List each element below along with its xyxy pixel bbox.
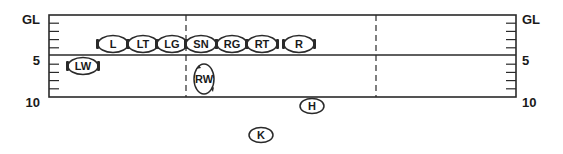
block-marker-icon xyxy=(96,39,99,49)
block-marker-icon xyxy=(184,39,187,49)
players: LLTLGSNRGRTRLWRWHK xyxy=(66,36,324,143)
player-label: LW xyxy=(75,60,92,72)
player-l: L xyxy=(96,36,130,53)
block-marker-icon xyxy=(155,39,158,49)
block-marker-icon xyxy=(245,39,248,49)
player-r: R xyxy=(282,36,316,53)
player-label: RW xyxy=(195,73,214,85)
yard-labels-right: GL510 xyxy=(522,12,540,110)
block-marker-icon xyxy=(126,39,129,49)
player-lg: LG xyxy=(155,36,189,53)
player-rt: RT xyxy=(245,36,279,53)
yard-labels-left: GL510 xyxy=(22,12,40,110)
block-marker-icon xyxy=(66,61,69,71)
yard-label: 10 xyxy=(522,95,536,110)
block-marker-icon xyxy=(313,39,316,49)
yard-label: GL xyxy=(22,12,40,27)
field-box xyxy=(49,15,516,97)
player-h: H xyxy=(300,99,324,114)
player-label: RG xyxy=(224,38,241,50)
player-label: H xyxy=(308,100,316,112)
player-rg: RG xyxy=(215,36,249,53)
block-marker-icon xyxy=(282,39,285,49)
field-outline xyxy=(49,15,516,97)
yard-label: 10 xyxy=(26,95,40,110)
field-diagram: GL510 GL510 LLTLGSNRGRTRLWRWHK xyxy=(0,0,563,154)
player-sn: SN xyxy=(184,36,218,53)
player-k: K xyxy=(249,128,273,143)
player-lt: LT xyxy=(126,36,160,53)
player-label: LT xyxy=(137,38,150,50)
player-lw: LW xyxy=(66,58,100,75)
block-marker-icon xyxy=(276,39,279,49)
player-label: K xyxy=(257,129,265,141)
player-label: SN xyxy=(193,38,208,50)
player-label: LG xyxy=(164,38,179,50)
yard-label: 5 xyxy=(522,53,529,68)
player-rw: RW xyxy=(194,64,214,94)
block-marker-icon xyxy=(215,39,218,49)
yard-label: 5 xyxy=(33,53,40,68)
player-label: RT xyxy=(255,38,270,50)
player-label: L xyxy=(110,38,117,50)
player-label: R xyxy=(295,38,303,50)
yard-label: GL xyxy=(522,12,540,27)
block-marker-icon xyxy=(97,61,100,71)
